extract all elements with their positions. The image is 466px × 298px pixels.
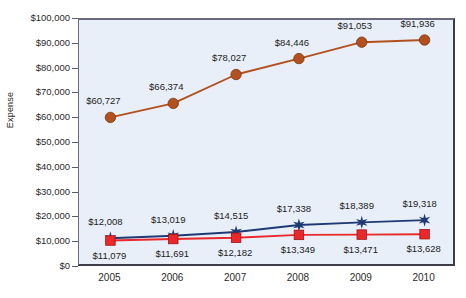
y-axis-tick-label: $90,000 (8, 37, 70, 48)
y-axis-tick-label: $50,000 (8, 136, 70, 147)
x-axis-tick-label: 2005 (79, 272, 139, 283)
data-label: $84,446 (275, 37, 309, 48)
x-axis-tick-label: 2010 (394, 272, 454, 283)
series-line (110, 234, 424, 240)
y-axis-tick-mark (72, 266, 78, 267)
data-label: $11,691 (155, 248, 189, 259)
y-axis-tick-labels: $100,000$90,000$80,000$70,000$60,000$50,… (8, 0, 70, 298)
expense-line-chart: Expense $100,000$90,000$80,000$70,000$60… (0, 0, 466, 298)
data-label: $19,318 (402, 198, 436, 209)
data-label: $12,182 (218, 247, 252, 258)
y-axis-tick-label: $60,000 (8, 111, 70, 122)
x-axis-tick-label: 2008 (268, 272, 328, 283)
y-axis-tick-label: $80,000 (8, 62, 70, 73)
data-label: $17,338 (277, 203, 311, 214)
series-circle (105, 35, 430, 123)
data-label: $91,936 (400, 18, 434, 29)
y-axis-tick-label: $70,000 (8, 86, 70, 97)
plot-area (78, 18, 455, 266)
data-label: $12,008 (88, 216, 122, 227)
y-axis-tick-label: $20,000 (8, 210, 70, 221)
y-axis-tick-label: $40,000 (8, 161, 70, 172)
plot-svg (79, 20, 456, 268)
data-label: $78,027 (212, 52, 246, 63)
data-label: $13,019 (151, 214, 185, 225)
y-axis-tick-label: $100,000 (8, 12, 70, 23)
data-label: $11,079 (93, 250, 127, 261)
data-label: $18,389 (340, 200, 374, 211)
y-axis-tick-label: $10,000 (8, 235, 70, 246)
x-axis-tick-label: 2006 (142, 272, 202, 283)
data-label: $13,628 (406, 243, 440, 254)
y-axis-tick-label: $0 (8, 260, 70, 271)
data-label: $60,727 (86, 95, 120, 106)
data-label: $66,374 (149, 81, 183, 92)
x-axis-tick-label: 2009 (331, 272, 391, 283)
data-label: $14,515 (214, 210, 248, 221)
series-line (110, 40, 424, 117)
data-label: $13,349 (281, 244, 315, 255)
x-axis-tick-label: 2007 (205, 272, 265, 283)
data-label: $13,471 (344, 244, 378, 255)
x-axis-tick-labels: 200520062007200820092010 (78, 272, 455, 292)
y-axis-tick-label: $30,000 (8, 186, 70, 197)
data-label: $91,053 (338, 20, 372, 31)
